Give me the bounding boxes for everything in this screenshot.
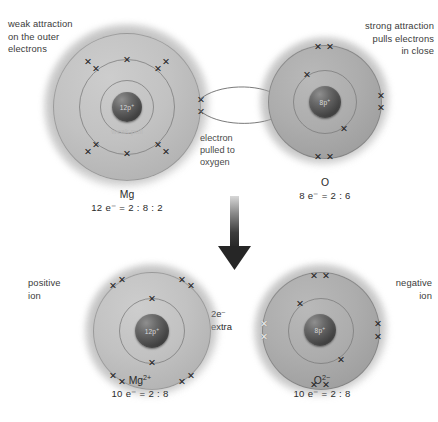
ionic-bonding-diagram: weak attraction on the outer electrons s… (0, 0, 438, 422)
magnesium-ion-caption: Mg2+ 10 e⁻ = 2 : 8 (65, 371, 215, 400)
annotation-positive-ion: positive ion (28, 277, 90, 302)
electron: ✕ (310, 272, 318, 280)
electron: ✕ (154, 65, 162, 73)
electron: ✕ (148, 295, 156, 303)
extra-electron: ✕ (260, 333, 268, 341)
electron: ✕ (123, 150, 131, 158)
nucleus: 12p+ (135, 314, 169, 348)
reaction-arrow-down (213, 196, 257, 272)
nucleus-label: 12p+ (145, 326, 160, 335)
oxygen-symbol: O (250, 176, 400, 189)
electron: ✕ (326, 153, 334, 161)
weak-pull-label: weak pull (97, 127, 157, 136)
oxide-ion-caption: O2− 10 e⁻ = 2 : 8 (247, 371, 397, 400)
electron: ✕ (374, 333, 382, 341)
electron: ✕ (154, 141, 162, 149)
electron: ✕ (314, 43, 322, 51)
oxygen-atom: 8p+ ✕ ✕ ✕ ✕ ✕ ✕ ✕ ✕ (268, 45, 382, 159)
electron: ✕ (84, 148, 92, 156)
electron: ✕ (377, 104, 385, 112)
electron: ✕ (148, 359, 156, 367)
electron: ✕ (118, 276, 126, 284)
nucleus: 8p+ (309, 86, 341, 118)
electron: ✕ (187, 282, 195, 290)
magnesium-caption: Mg 12 e⁻ = 2 : 8 : 2 (52, 188, 202, 214)
extra-electron: ✕ (260, 320, 268, 328)
nucleus: 8p+ (304, 314, 336, 346)
nucleus-label: 8p+ (320, 97, 331, 106)
magnesium-ion-configuration: 10 e⁻ = 2 : 8 (65, 387, 215, 400)
electron: ✕ (303, 71, 311, 79)
electron: ✕ (337, 356, 345, 364)
oxygen-caption: O 8 e⁻ = 2 : 6 (250, 176, 400, 202)
electron: ✕ (377, 92, 385, 100)
electron: ✕ (109, 282, 117, 290)
electron: ✕ (296, 300, 304, 308)
magnesium-atom: 12p+ weak pull ✕ ✕ ✕ ✕ ✕ ✕ ✕ ✕ ✕ ✕ ✕ ✕ (53, 33, 201, 181)
electron: ✕ (92, 65, 100, 73)
electron: ✕ (162, 148, 170, 156)
electron: ✕ (314, 153, 322, 161)
electron: ✕ (178, 276, 186, 284)
nucleus: 12p+ (112, 92, 142, 122)
electron: ✕ (123, 56, 131, 64)
electron: ✕ (326, 43, 334, 51)
electron: ✕ (322, 272, 330, 280)
electron: ✕ (162, 58, 170, 66)
electron: ✕ (84, 58, 92, 66)
oxide-ion-configuration: 10 e⁻ = 2 : 8 (247, 387, 397, 400)
electron: ✕ (340, 125, 348, 133)
oxide-ion-symbol: O2− (247, 371, 397, 387)
oxygen-configuration: 8 e⁻ = 2 : 6 (250, 189, 400, 202)
nucleus-label: 8p+ (315, 325, 326, 334)
magnesium-ion-symbol: Mg2+ (65, 371, 215, 387)
magnesium-configuration: 12 e⁻ = 2 : 8 : 2 (52, 201, 202, 214)
magnesium-symbol: Mg (52, 188, 202, 201)
electron: ✕ (374, 320, 382, 328)
electron: ✕ (92, 141, 100, 149)
nucleus-label: 12p+ (120, 102, 135, 111)
transfer-label: electron pulled to oxygen (200, 132, 235, 169)
